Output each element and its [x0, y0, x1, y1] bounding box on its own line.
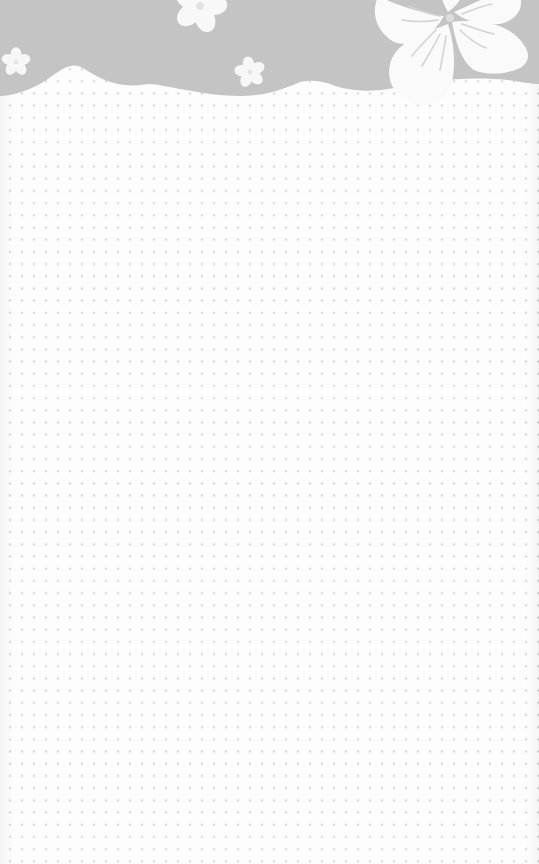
decorative-header-band	[0, 0, 539, 110]
hibiscus-large-right-icon	[375, 0, 528, 105]
dot-grid-paper	[0, 0, 539, 864]
